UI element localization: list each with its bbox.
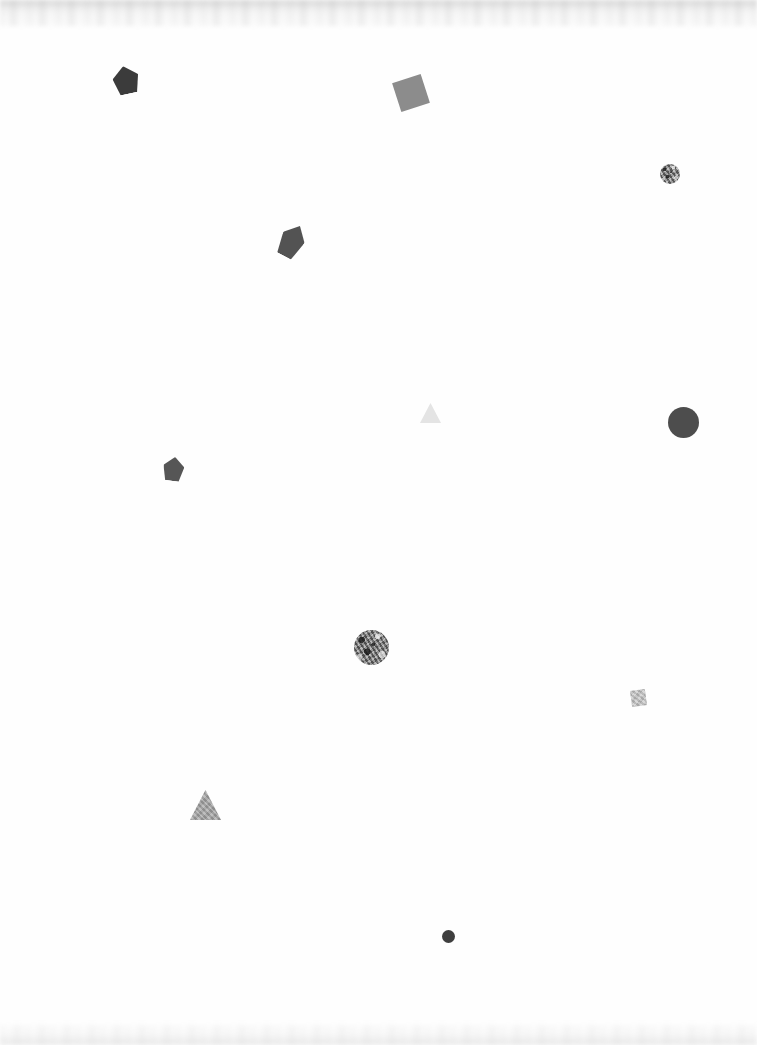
pentagon-dark-upper-center <box>273 220 310 261</box>
circle-dark-small-bottom <box>442 930 455 943</box>
triangle-pale-center <box>420 403 441 423</box>
triangle-gray-lower-left <box>190 790 221 820</box>
shape-scatter-canvas <box>0 0 757 1045</box>
top-edge-artifact <box>0 0 757 26</box>
circle-dark-large-right <box>668 407 699 438</box>
square-gray-top-center <box>392 74 430 112</box>
bottom-edge-artifact <box>0 1025 757 1045</box>
square-light-lower-right <box>630 689 647 707</box>
pentagon-dark-mid-left <box>161 456 185 483</box>
pentagon-dark-top-left <box>110 64 141 97</box>
circle-textured-top-right <box>660 164 680 184</box>
circle-textured-center <box>354 630 389 665</box>
